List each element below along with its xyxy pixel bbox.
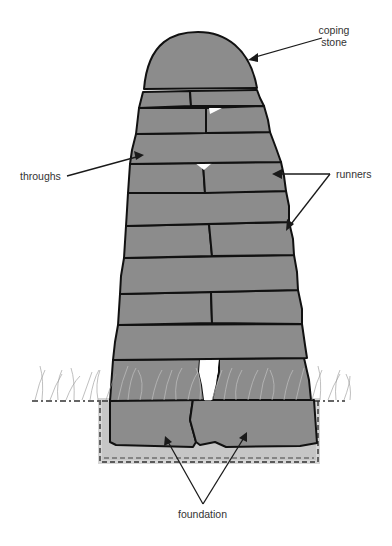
- wall-courses: [113, 32, 307, 360]
- dry-stone-wall-diagram: [0, 0, 392, 546]
- runner-stone-lower: [209, 222, 294, 256]
- coping-stone: [144, 32, 257, 89]
- foundation-label: foundation: [178, 508, 227, 520]
- runner-stone-upper: [203, 162, 286, 193]
- foundation-stones: [110, 399, 317, 447]
- coping-stone-label-line1: coping: [313, 24, 355, 36]
- coping-stone-label: coping stone: [313, 24, 355, 48]
- through-stone-lower: [113, 324, 307, 360]
- bottom-course: [110, 358, 311, 401]
- throughs-label: throughs: [20, 170, 61, 182]
- runners-label: runners: [336, 168, 372, 180]
- coping-stone-label-line2: stone: [313, 36, 355, 48]
- through-stone-upper: [130, 132, 281, 164]
